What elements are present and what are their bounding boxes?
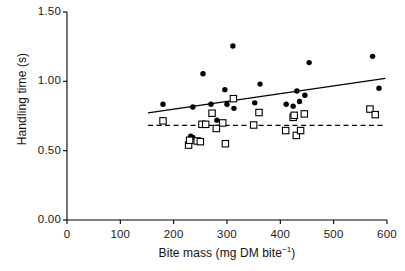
data-point-filled-circle: [222, 87, 227, 92]
data-point-filled-circle: [230, 43, 235, 48]
data-point-open-square: [372, 111, 378, 117]
data-point-filled-circle: [302, 93, 307, 98]
data-point-open-square: [220, 120, 226, 126]
data-point-filled-circle: [200, 71, 205, 76]
data-point-filled-circle: [231, 106, 236, 111]
x-axis-tick-label: 400: [258, 228, 302, 240]
data-point-open-square: [197, 138, 203, 144]
x-axis-title-tail: ): [291, 246, 295, 260]
y-axis-tick-label: 1.50: [23, 5, 61, 17]
data-point-filled-circle: [284, 102, 289, 107]
data-point-open-square: [209, 110, 215, 116]
data-point-filled-circle: [252, 100, 257, 105]
data-point-open-square: [301, 111, 307, 117]
data-point-open-square: [213, 125, 219, 131]
x-axis-tick-label: 500: [312, 228, 356, 240]
x-axis-tick-label: 0: [45, 228, 89, 240]
data-point-open-square: [291, 112, 297, 118]
data-point-open-square: [160, 118, 166, 124]
x-axis-tick-label: 200: [152, 228, 196, 240]
x-axis-title-superscript: −1: [282, 245, 291, 254]
data-point-filled-circle: [214, 117, 219, 122]
x-axis-tick-label: 300: [205, 228, 249, 240]
solid-regression-line: [148, 78, 385, 113]
data-point-open-square: [186, 137, 192, 143]
chart-figure: Handling time (s) Bite mass (mg DM bite−…: [0, 0, 405, 271]
data-point-filled-circle: [294, 88, 299, 93]
x-axis-tick-label: 100: [98, 228, 142, 240]
data-point-filled-circle: [190, 104, 195, 109]
data-point-open-square: [222, 141, 228, 147]
data-point-open-square: [256, 109, 262, 115]
data-point-filled-circle: [370, 54, 375, 59]
y-axis-tick-label: 0.00: [23, 213, 61, 225]
data-point-open-square: [282, 127, 288, 133]
x-axis-tick-label: 600: [365, 228, 405, 240]
y-axis-title: Handling time (s): [15, 39, 29, 159]
data-point-open-square: [202, 121, 208, 127]
x-axis-title-main: Bite mass (mg DM bite: [159, 246, 282, 260]
data-point-filled-circle: [290, 104, 295, 109]
y-axis-tick-label: 1.00: [23, 74, 61, 86]
y-axis-tick-label: 0.50: [23, 144, 61, 156]
x-axis-title: Bite mass (mg DM bite−1): [67, 245, 387, 260]
data-point-filled-circle: [257, 81, 262, 86]
data-point-filled-circle: [160, 102, 165, 107]
data-point-filled-circle: [306, 60, 311, 65]
data-point-filled-circle: [208, 102, 213, 107]
data-point-open-square: [250, 122, 256, 128]
data-point-filled-circle: [224, 102, 229, 107]
data-point-filled-circle: [297, 99, 302, 104]
data-point-open-square: [297, 127, 303, 133]
data-point-open-square: [230, 95, 236, 101]
data-point-filled-circle: [376, 86, 381, 91]
